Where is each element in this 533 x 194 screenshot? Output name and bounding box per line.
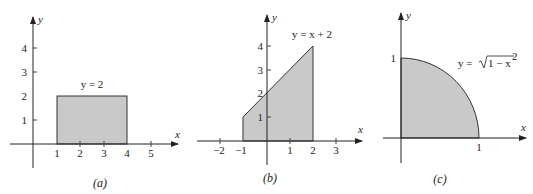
equation-label: y = 1 − x 2 [458, 50, 518, 69]
panel-c: 1 1 x y y = 1 − x 2 (c) [383, 9, 526, 186]
svg-text:y =: y = [458, 57, 472, 69]
x-axis-label: x [357, 123, 363, 135]
xtick-label: 5 [148, 147, 154, 159]
x-axis-label: x [520, 121, 526, 133]
xtick-label: 4 [124, 147, 130, 159]
ytick-label: 3 [22, 66, 28, 78]
ytick-label: 1 [391, 52, 397, 64]
xtick-label: 1 [54, 147, 60, 159]
x-axis-label: x [174, 128, 180, 140]
shaded-region-a [57, 96, 127, 144]
svg-text:1 − x: 1 − x [488, 57, 511, 69]
shaded-region-c [401, 58, 479, 138]
ytick-label: 2 [22, 90, 28, 102]
ytick-label: 1 [22, 114, 28, 126]
xtick-label: 3 [101, 147, 107, 159]
y-ticks-a [33, 48, 37, 120]
figure: 1 2 3 4 5 1 2 3 4 x y y = 2 (a) −2 −1 1 … [0, 0, 533, 194]
y-axis-label: y [37, 13, 43, 25]
panel-b: −2 −1 1 2 3 1 2 3 4 x y y = x + 2 (b) [197, 11, 363, 185]
ytick-label: 4 [258, 40, 264, 52]
xtick-label: −1 [235, 144, 247, 156]
panel-a: 1 2 3 4 5 1 2 3 4 x y y = 2 (a) [10, 13, 180, 190]
xtick-label: 3 [333, 144, 339, 156]
xtick-label: 1 [287, 144, 293, 156]
caption-a: (a) [93, 176, 107, 190]
xtick-label: 2 [310, 144, 316, 156]
equation-label: y = 2 [81, 78, 104, 90]
ytick-label: 1 [258, 111, 264, 123]
ytick-label: 3 [258, 64, 264, 76]
y-axis-label: y [271, 11, 277, 23]
ytick-label: 2 [258, 87, 264, 99]
xtick-label: 1 [476, 141, 482, 153]
svg-text:2: 2 [512, 50, 518, 62]
xtick-label: −2 [213, 144, 225, 156]
y-axis-label: y [405, 9, 411, 21]
equation-label: y = x + 2 [292, 28, 332, 40]
caption-c: (c) [433, 172, 446, 186]
ytick-label: 4 [22, 42, 28, 54]
shaded-region-b [243, 46, 313, 141]
caption-b: (b) [263, 171, 277, 185]
xtick-label: 2 [77, 147, 83, 159]
